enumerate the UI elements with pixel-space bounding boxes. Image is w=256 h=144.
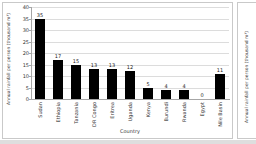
gridline [31, 7, 229, 8]
bar [53, 60, 63, 99]
y-tick-label: 5 [15, 85, 29, 91]
bar [143, 88, 153, 100]
bar [107, 69, 117, 99]
y-tick-label: 10 [15, 73, 29, 79]
bar-value-label: 15 [66, 58, 86, 64]
bar-value-label: 12 [120, 64, 140, 70]
bar-value-label: 13 [102, 62, 122, 68]
bar [161, 90, 171, 99]
y-axis-line [31, 7, 32, 100]
right-chart-panel-partial: Annual rainfall per person (thousand m³) [237, 2, 256, 139]
y-axis-title-right: Annual rainfall per person (thousand m³) [244, 19, 250, 123]
gridline [31, 19, 229, 20]
page-background-strip [0, 140, 256, 144]
y-tick-label: 0 [15, 96, 29, 102]
x-axis-title: Country [31, 128, 229, 134]
y-tick-label: 25 [15, 39, 29, 45]
bar [125, 71, 135, 99]
x-tick-label: Burundi [163, 102, 169, 122]
x-tick-label: DR Congo [91, 102, 97, 127]
bar [35, 19, 45, 100]
y-tick-label: 35 [15, 16, 29, 22]
document-page: Annual rainfall per person (thousand m³)… [0, 0, 256, 144]
x-tick-label: Egypt [199, 102, 205, 116]
left-chart-panel: Annual rainfall per person (thousand m³)… [2, 2, 233, 139]
bar [179, 90, 189, 99]
bar-value-label: 17 [48, 53, 68, 59]
plot-area: 051015202530354035Sudan17Ethiopia15Tanza… [3, 3, 232, 138]
gridline [31, 42, 229, 43]
x-tick-label: Uganda [127, 102, 133, 121]
bar-value-label: 35 [30, 12, 50, 18]
x-axis-line [29, 99, 230, 100]
bar-value-label: 13 [84, 62, 104, 68]
x-tick-label: Eritrea [109, 102, 115, 119]
bar-value-label: 11 [210, 67, 230, 73]
x-tick-label: Kenya [145, 102, 151, 117]
bar-value-label: 4 [156, 83, 176, 89]
x-tick-label: Rwanda [181, 102, 187, 122]
y-tick-label: 40 [15, 4, 29, 10]
y-tick-label: 30 [15, 27, 29, 33]
bar [215, 74, 225, 99]
bar [71, 65, 81, 100]
bar-value-label: 5 [138, 81, 158, 87]
x-tick-label: Nile Basin [217, 102, 223, 127]
x-tick-label: Tanzania [73, 102, 79, 124]
bar-value-label: 4 [174, 83, 194, 89]
y-tick-label: 20 [15, 50, 29, 56]
bar [89, 69, 99, 99]
y-tick-label: 15 [15, 62, 29, 68]
gridline [31, 30, 229, 31]
x-tick-label: Sudan [37, 102, 43, 118]
bar-value-label: 0 [192, 92, 212, 98]
x-tick-label: Ethiopia [55, 102, 61, 122]
